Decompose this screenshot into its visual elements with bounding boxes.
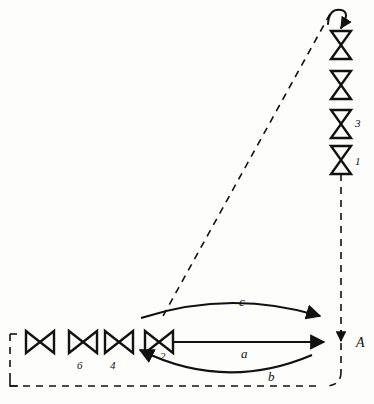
- dashed-frame: [10, 174, 341, 386]
- label-valve-6: 6: [77, 359, 83, 371]
- dashed-bottom-left-corner: [10, 380, 18, 386]
- label-node-a: A: [355, 335, 365, 350]
- label-valve-4: 4: [110, 359, 116, 371]
- valve-vertical-second[interactable]: [331, 71, 351, 99]
- label-arc-c: c: [239, 294, 245, 309]
- valve-vertical-fourth[interactable]: [331, 146, 351, 174]
- label-valve-2: 2: [160, 350, 166, 362]
- valve-vertical-top[interactable]: [331, 31, 351, 59]
- schematic-drawing: 3 1 6 4 2 c a b A: [0, 0, 374, 404]
- valve-vertical-third[interactable]: [331, 110, 351, 138]
- valve-horizontal-4[interactable]: [105, 331, 133, 353]
- valve-horizontal-1[interactable]: [26, 331, 54, 353]
- horizontal-valve-group: [26, 331, 173, 353]
- diagram-canvas: 3 1 6 4 2 c a b A: [0, 0, 374, 404]
- valve-horizontal-2[interactable]: [145, 331, 173, 353]
- flow-arc-b[interactable]: [140, 350, 312, 372]
- label-valve-3: 3: [354, 117, 361, 129]
- dashed-diagonal-feed: [163, 14, 330, 316]
- vertical-valve-group: [331, 31, 351, 174]
- dashed-bottom-right-corner: [325, 372, 341, 386]
- valve-horizontal-6[interactable]: [69, 331, 97, 353]
- flow-arc-c[interactable]: [141, 303, 320, 318]
- label-arc-b: b: [268, 369, 275, 384]
- label-valve-1: 1: [355, 155, 361, 167]
- label-arc-a: a: [241, 346, 248, 361]
- return-hook-icon: [328, 10, 346, 28]
